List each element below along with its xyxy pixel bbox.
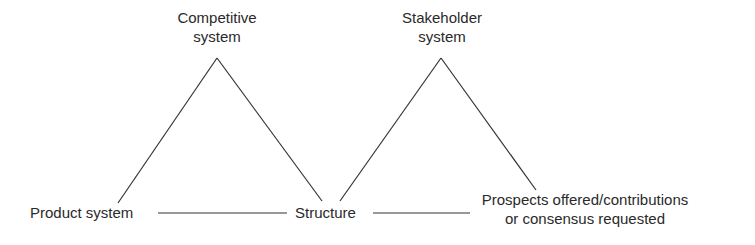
edge-product-competitive (118, 58, 217, 203)
node-prospects: Prospects offered/contributions or conse… (472, 190, 698, 228)
node-label: Prospects offered/contributions (472, 190, 698, 209)
edge-competitive-structure (217, 58, 322, 201)
node-label: Competitive (147, 8, 287, 27)
node-label: system (147, 27, 287, 46)
node-stakeholder-system: Stakeholder system (372, 8, 512, 46)
node-product-system: Product system (30, 203, 133, 222)
edge-structure-stakeholder (340, 58, 441, 201)
node-label: Stakeholder (372, 8, 512, 27)
node-label: system (372, 27, 512, 46)
node-competitive-system: Competitive system (147, 8, 287, 46)
node-label: or consensus requested (472, 209, 698, 228)
edge-stakeholder-prospects (441, 58, 536, 190)
node-structure: Structure (295, 203, 356, 222)
